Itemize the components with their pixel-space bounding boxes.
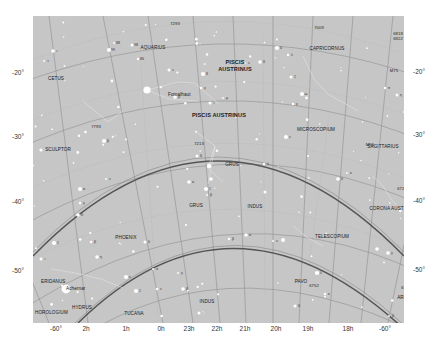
field-star-icon[interactable] bbox=[83, 66, 84, 67]
star-icon[interactable] bbox=[90, 241, 92, 243]
field-star-icon[interactable] bbox=[186, 168, 188, 170]
deep-sky-object-label[interactable]: 6822 bbox=[393, 37, 403, 41]
star-icon[interactable] bbox=[134, 289, 138, 293]
field-star-icon[interactable] bbox=[369, 199, 371, 201]
star-icon[interactable] bbox=[156, 288, 158, 290]
deep-sky-object-label[interactable]: 7009 bbox=[314, 26, 324, 30]
field-star-icon[interactable] bbox=[324, 296, 326, 298]
field-star-icon[interactable] bbox=[89, 232, 91, 234]
field-star-icon[interactable] bbox=[283, 67, 284, 68]
field-star-icon[interactable] bbox=[43, 180, 45, 182]
field-star-icon[interactable] bbox=[117, 106, 119, 108]
star-icon[interactable] bbox=[258, 60, 262, 64]
star-icon[interactable] bbox=[315, 271, 319, 275]
field-star-icon[interactable] bbox=[33, 165, 34, 167]
star-icon[interactable] bbox=[209, 177, 213, 181]
field-star-icon[interactable] bbox=[73, 162, 75, 164]
field-star-icon[interactable] bbox=[125, 138, 127, 140]
constellation-label[interactable]: SCULPTOR bbox=[45, 148, 71, 153]
constellation-label[interactable]: AUSTRINUS bbox=[218, 67, 252, 73]
field-star-icon[interactable] bbox=[298, 211, 299, 212]
field-star-icon[interactable] bbox=[160, 86, 162, 88]
star-icon[interactable] bbox=[144, 241, 147, 244]
field-star-icon[interactable] bbox=[120, 243, 121, 244]
deep-sky-object-label[interactable]: 6723 bbox=[401, 286, 404, 290]
field-star-icon[interactable] bbox=[305, 97, 308, 100]
field-star-icon[interactable] bbox=[240, 165, 241, 166]
field-star-icon[interactable] bbox=[197, 286, 199, 288]
constellation-label[interactable]: TELESCOPIUM bbox=[315, 235, 349, 240]
field-star-icon[interactable] bbox=[41, 115, 43, 117]
field-star-icon[interactable] bbox=[200, 43, 201, 44]
field-star-icon[interactable] bbox=[78, 135, 80, 137]
star-icon[interactable] bbox=[281, 238, 285, 242]
field-star-icon[interactable] bbox=[319, 123, 321, 125]
field-star-icon[interactable] bbox=[216, 31, 218, 33]
field-star-icon[interactable] bbox=[195, 42, 198, 45]
star-icon[interactable] bbox=[388, 315, 390, 317]
star-icon[interactable] bbox=[324, 293, 326, 295]
field-star-icon[interactable] bbox=[249, 55, 251, 57]
star-icon[interactable] bbox=[39, 148, 42, 151]
field-star-icon[interactable] bbox=[62, 300, 63, 301]
constellation-label[interactable]: PHOENIX bbox=[115, 236, 136, 241]
field-star-icon[interactable] bbox=[123, 151, 125, 153]
constellation-label[interactable]: HOROLOGIUM bbox=[35, 311, 68, 316]
field-star-icon[interactable] bbox=[176, 71, 178, 73]
field-star-icon[interactable] bbox=[300, 195, 303, 198]
field-star-icon[interactable] bbox=[61, 285, 63, 287]
constellation-label[interactable]: CAPRICORNUS bbox=[309, 47, 344, 52]
field-star-icon[interactable] bbox=[165, 38, 168, 41]
field-star-icon[interactable] bbox=[387, 115, 389, 117]
star-icon[interactable] bbox=[386, 251, 390, 255]
star-icon[interactable] bbox=[264, 191, 267, 194]
field-star-icon[interactable] bbox=[312, 299, 314, 301]
constellation-label[interactable]: ERIDANUS bbox=[41, 280, 66, 285]
field-star-icon[interactable] bbox=[184, 102, 186, 104]
star-icon[interactable] bbox=[76, 213, 80, 217]
field-star-icon[interactable] bbox=[62, 21, 64, 23]
star-icon[interactable] bbox=[375, 247, 379, 251]
constellation-label[interactable]: ARA bbox=[397, 296, 404, 301]
field-star-icon[interactable] bbox=[213, 35, 215, 37]
field-star-icon[interactable] bbox=[195, 38, 198, 41]
deep-sky-object-label[interactable]: M55 bbox=[366, 143, 374, 147]
star-icon[interactable] bbox=[228, 238, 230, 240]
field-star-icon[interactable] bbox=[282, 102, 283, 103]
constellation-label[interactable]: AQUARIUS bbox=[141, 46, 166, 51]
star-icon[interactable] bbox=[209, 102, 212, 105]
field-star-icon[interactable] bbox=[341, 274, 342, 275]
field-star-icon[interactable] bbox=[64, 65, 66, 67]
star-icon[interactable] bbox=[396, 94, 399, 97]
field-star-icon[interactable] bbox=[64, 80, 65, 81]
field-star-icon[interactable] bbox=[145, 24, 147, 26]
field-star-icon[interactable] bbox=[361, 306, 363, 308]
field-star-icon[interactable] bbox=[238, 215, 240, 217]
star-icon[interactable] bbox=[201, 72, 205, 76]
field-star-icon[interactable] bbox=[341, 67, 342, 68]
field-star-icon[interactable] bbox=[63, 36, 64, 37]
star-icon[interactable] bbox=[137, 58, 139, 60]
field-star-icon[interactable] bbox=[278, 166, 279, 167]
field-star-icon[interactable] bbox=[199, 150, 200, 151]
star-icon[interactable] bbox=[244, 233, 248, 237]
field-star-icon[interactable] bbox=[79, 238, 82, 241]
field-star-icon[interactable] bbox=[398, 152, 399, 153]
star-icon[interactable] bbox=[113, 42, 115, 44]
star-icon[interactable] bbox=[79, 202, 81, 204]
field-star-icon[interactable] bbox=[51, 128, 53, 130]
star-icon[interactable] bbox=[222, 97, 224, 99]
constellation-label[interactable]: CETUS bbox=[48, 77, 64, 82]
field-star-icon[interactable] bbox=[306, 118, 309, 121]
star-icon[interactable] bbox=[196, 155, 199, 158]
star-icon[interactable] bbox=[294, 305, 297, 308]
field-star-icon[interactable] bbox=[35, 247, 37, 249]
deep-sky-object-label[interactable]: 7293 bbox=[170, 22, 180, 26]
star-icon[interactable] bbox=[272, 240, 274, 242]
deep-sky-object-label[interactable]: 7793 bbox=[91, 125, 101, 129]
constellation-label[interactable]: GRUS bbox=[225, 163, 239, 168]
field-star-icon[interactable] bbox=[115, 135, 116, 136]
field-star-icon[interactable] bbox=[160, 315, 162, 317]
star-icon[interactable] bbox=[384, 87, 386, 89]
star-icon[interactable] bbox=[43, 60, 45, 62]
